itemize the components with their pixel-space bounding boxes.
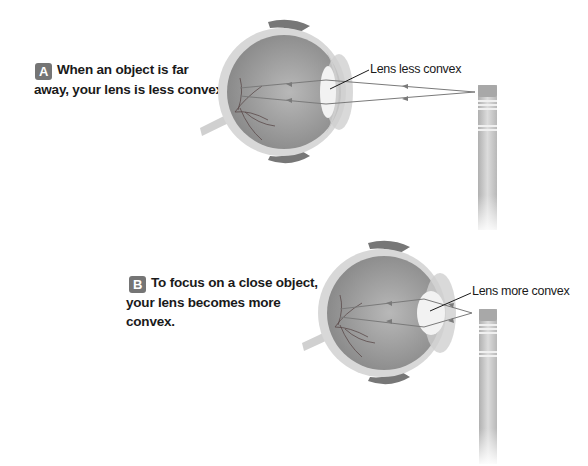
lens-less-convex (320, 66, 336, 118)
panel-a: AWhen an object is far away, your lens i… (0, 0, 588, 233)
pencil-close (476, 309, 500, 466)
panel-b: BTo focus on a close object, your lens b… (0, 233, 588, 466)
eye-diagram-far (0, 0, 588, 233)
lens-more-convex (417, 291, 445, 335)
lens-label-b: Lens more convex (472, 284, 569, 298)
lens-label-a: Lens less convex (370, 62, 461, 76)
pencil-far (476, 85, 500, 233)
eye-diagram-close (0, 233, 588, 466)
